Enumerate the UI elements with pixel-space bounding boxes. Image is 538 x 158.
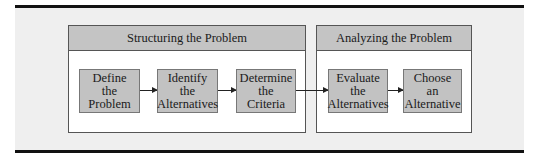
step-line: Alternatives (327, 98, 388, 111)
step-choose-alternative: Choose an Alternative (403, 69, 462, 113)
group-title: Structuring the Problem (127, 31, 247, 46)
step-line: Alternatives (157, 98, 218, 111)
group-title: Analyzing the Problem (336, 31, 452, 46)
step-line: Define (92, 72, 126, 85)
step-line: Choose (414, 72, 452, 85)
step-line: Problem (88, 98, 130, 111)
step-identify-alternatives: Identify the Alternatives (157, 69, 218, 113)
step-evaluate-alternatives: Evaluate the Alternatives (328, 69, 388, 113)
step-define-problem: Define the Problem (79, 69, 140, 113)
arrow-icon (140, 90, 157, 91)
step-line: Determine (240, 72, 293, 85)
step-line: an (427, 85, 439, 98)
bottom-rule (15, 150, 524, 153)
step-line: the (180, 85, 195, 98)
top-rule (15, 5, 524, 8)
arrow-icon (388, 90, 403, 91)
step-line: Criteria (247, 98, 285, 111)
step-line: Evaluate (336, 72, 380, 85)
arrow-icon (218, 90, 236, 91)
step-line: Alternative (404, 98, 460, 111)
group-header: Analyzing the Problem (317, 26, 471, 51)
step-line: the (102, 85, 117, 98)
step-determine-criteria: Determine the Criteria (236, 69, 296, 113)
arrow-icon (296, 90, 328, 91)
step-line: the (350, 85, 365, 98)
step-line: Identify (168, 72, 208, 85)
group-header: Structuring the Problem (69, 26, 305, 51)
step-line: the (258, 85, 273, 98)
